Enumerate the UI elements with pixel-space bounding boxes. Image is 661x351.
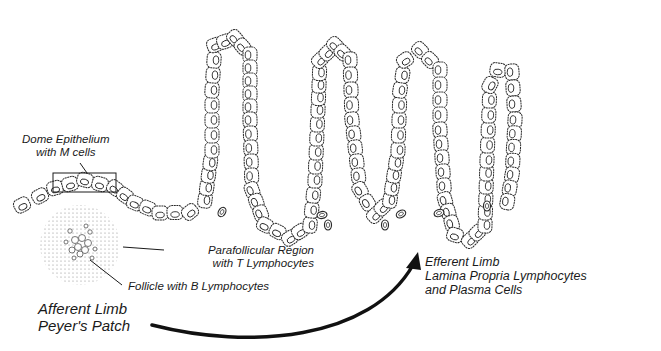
afferent-label-line1: Afferent Limb — [38, 301, 130, 318]
efferent-label-line3: and Plasma Cells — [425, 283, 587, 297]
dome-leader — [80, 163, 87, 173]
dome-epithelium-label: Dome Epithelium with M cells — [22, 133, 110, 159]
parafollicular-leader — [123, 247, 164, 250]
efferent-limb-label: Efferent Limb Lamina Propria Lymphocytes… — [425, 255, 587, 297]
dome-label-line1: Dome Epithelium — [22, 133, 110, 146]
efferent-label-line1: Efferent Limb — [425, 255, 587, 269]
follicle-region — [40, 205, 120, 285]
dome-label-line2: with M cells — [22, 146, 110, 159]
parafollicular-label-line1: Parafollicular Region — [168, 244, 314, 257]
afferent-label-line2: Peyer's Patch — [38, 318, 130, 335]
efferent-label-line2: Lamina Propria Lymphocytes — [425, 269, 587, 283]
afferent-limb-label: Afferent Limb Peyer's Patch — [38, 301, 130, 335]
villi-illustration — [0, 0, 661, 351]
diagram-canvas: Dome Epithelium with M cells Parafollicu… — [0, 0, 661, 351]
parafollicular-label-line2: with T Lymphocytes — [168, 257, 314, 270]
follicle-label-line1: Follicle with B Lymphocytes — [128, 280, 269, 293]
parafollicular-label: Parafollicular Region with T Lymphocytes — [168, 244, 314, 270]
follicle-label: Follicle with B Lymphocytes — [128, 280, 269, 293]
